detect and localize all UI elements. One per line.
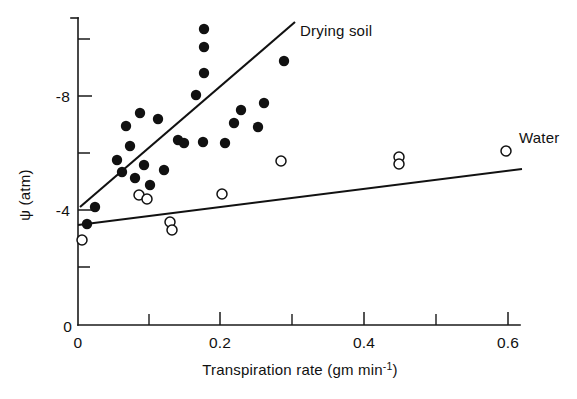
x-axis-label-main: Transpiration rate (gm min xyxy=(202,361,383,378)
data-point xyxy=(191,90,201,100)
data-point xyxy=(167,225,177,235)
data-point xyxy=(130,173,140,183)
x-axis-label-tail: ) xyxy=(393,361,398,378)
data-point xyxy=(139,160,149,170)
data-point xyxy=(159,165,169,175)
scatter-plot: -8 -4 0 0 0.2 0.4 0.6 Transpiration rate… xyxy=(0,0,577,399)
data-point xyxy=(259,98,269,108)
data-point xyxy=(125,141,135,151)
axes-group xyxy=(71,18,520,325)
x-tick-label-0.4: 0.4 xyxy=(353,334,375,351)
data-point xyxy=(82,219,92,229)
data-point xyxy=(112,155,122,165)
series-label-water: Water xyxy=(519,129,559,146)
x-axis-ticks xyxy=(149,312,508,325)
data-point xyxy=(199,24,209,34)
y-axis-ticks xyxy=(78,39,92,267)
data-point xyxy=(135,108,145,118)
x-axis-label-exponent: -1 xyxy=(383,360,393,372)
data-point xyxy=(121,121,131,131)
x-tick-labels: 0 0.2 0.4 0.6 xyxy=(74,334,519,351)
data-point xyxy=(198,137,208,147)
data-point xyxy=(179,138,189,148)
x-tick-label-0.6: 0.6 xyxy=(497,334,519,351)
y-axis-label: ψ (atm) xyxy=(16,169,33,220)
x-tick-label-0.2: 0.2 xyxy=(209,334,231,351)
data-point xyxy=(199,42,209,52)
data-point xyxy=(276,156,286,166)
data-point xyxy=(199,68,209,78)
x-tick-label-0: 0 xyxy=(74,334,83,351)
data-point xyxy=(142,194,152,204)
trend-line-drying-soil xyxy=(80,22,295,207)
data-point xyxy=(253,122,263,132)
data-point xyxy=(153,114,163,124)
y-tick-labels: -8 -4 0 xyxy=(56,88,72,335)
series-label-drying-soil: Drying soil xyxy=(300,22,372,39)
data-point xyxy=(117,167,127,177)
y-tick-label--8: -8 xyxy=(56,88,70,105)
data-point xyxy=(394,159,404,169)
figure-container: -8 -4 0 0 0.2 0.4 0.6 Transpiration rate… xyxy=(0,0,577,399)
data-point xyxy=(77,235,87,245)
data-point xyxy=(279,56,289,66)
data-point xyxy=(236,105,246,115)
y-tick-label-0: 0 xyxy=(63,318,72,335)
data-point xyxy=(220,138,230,148)
data-point xyxy=(229,118,239,128)
y-tick-label--4: -4 xyxy=(56,202,70,219)
data-point xyxy=(217,189,227,199)
data-point xyxy=(90,202,100,212)
data-point xyxy=(501,146,511,156)
x-axis-label: Transpiration rate (gm min-1) xyxy=(202,360,398,378)
data-point xyxy=(145,180,155,190)
